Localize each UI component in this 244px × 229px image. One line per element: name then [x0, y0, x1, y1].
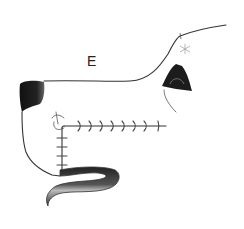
chin-outline	[22, 112, 60, 176]
surgical-illustration: E	[0, 0, 244, 229]
dorsal-profile-line	[44, 25, 226, 81]
eye-lower-lid	[164, 90, 176, 112]
asterisk-mark	[180, 44, 190, 54]
eye	[162, 64, 192, 91]
lip-flap	[47, 167, 120, 206]
nose	[20, 81, 45, 112]
panel-label: E	[87, 53, 96, 69]
profile-tick	[180, 33, 181, 39]
incision-corner	[62, 126, 64, 128]
